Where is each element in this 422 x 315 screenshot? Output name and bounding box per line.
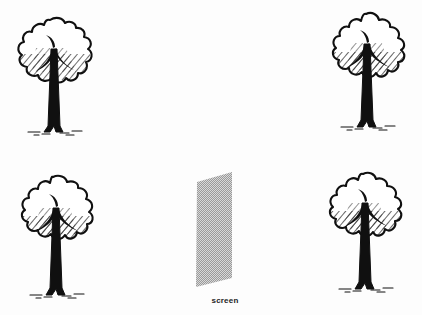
screen-shape xyxy=(190,165,240,299)
figure-canvas: screen xyxy=(0,0,422,315)
tree-ground-line xyxy=(341,126,395,130)
tree-top-right xyxy=(318,10,414,144)
tree-ground-line xyxy=(30,294,84,298)
screen-label: screen xyxy=(186,296,264,305)
tree-ground-line xyxy=(28,131,82,135)
tree-bottom-right xyxy=(316,168,412,302)
tree-ground-line xyxy=(339,288,393,292)
tree-top-left xyxy=(6,14,102,148)
tree-bottom-left xyxy=(8,172,104,306)
screen-plane xyxy=(196,172,232,287)
